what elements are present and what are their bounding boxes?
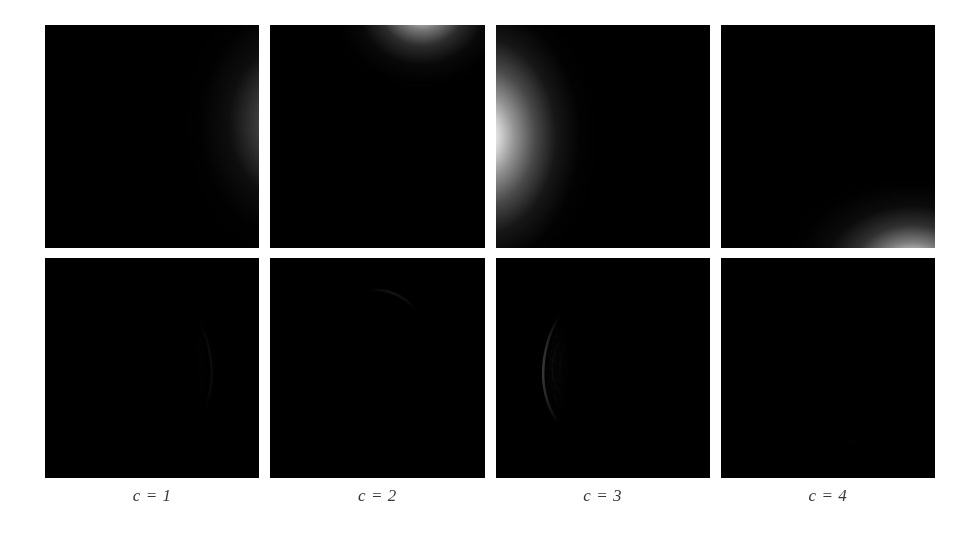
coil-image-3 bbox=[496, 258, 710, 478]
coil-sensitivity-map-1 bbox=[45, 25, 259, 248]
coil-image-1 bbox=[45, 258, 259, 478]
sensitivity-field-3 bbox=[496, 25, 710, 248]
image-grid bbox=[45, 25, 935, 478]
caption-coil-2: c = 2 bbox=[270, 486, 484, 506]
coil-sensitivity-map-3 bbox=[496, 25, 710, 248]
sensitivity-mask-2 bbox=[270, 258, 484, 478]
coil-sensitivity-map-2 bbox=[270, 25, 484, 248]
sensitivity-mask-4 bbox=[721, 258, 935, 478]
caption-coil-4: c = 4 bbox=[721, 486, 935, 506]
caption-row: c = 1 c = 2 c = 3 c = 4 bbox=[45, 486, 935, 506]
caption-coil-1: c = 1 bbox=[45, 486, 259, 506]
sensitivity-field-4 bbox=[721, 25, 935, 248]
coil-sensitivity-map-4 bbox=[721, 25, 935, 248]
sensitivity-mask-1 bbox=[45, 258, 259, 478]
sensitivity-mask-3 bbox=[496, 258, 710, 478]
sensitivity-field-2 bbox=[270, 25, 484, 248]
coil-image-2 bbox=[270, 258, 484, 478]
coil-image-4 bbox=[721, 258, 935, 478]
caption-coil-3: c = 3 bbox=[496, 486, 710, 506]
coil-sensitivity-figure: c = 1 c = 2 c = 3 c = 4 bbox=[0, 0, 980, 538]
sensitivity-field-1 bbox=[45, 25, 259, 248]
